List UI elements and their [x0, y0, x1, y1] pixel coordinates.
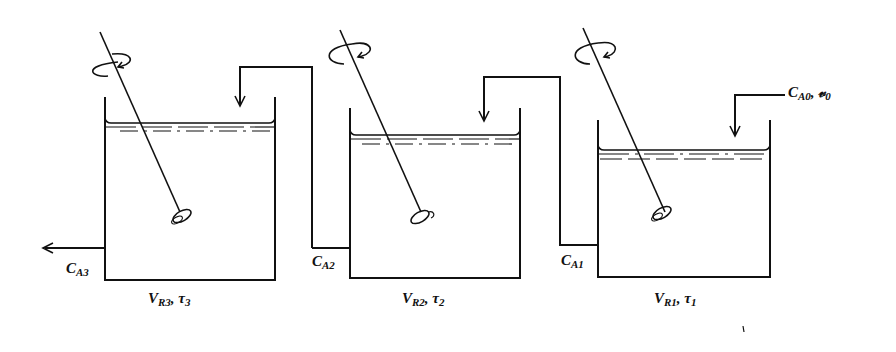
- impeller-icon: [170, 207, 193, 226]
- feed-pipe: [735, 95, 785, 135]
- tank-3-label: VR3, τ3: [148, 290, 191, 308]
- feed-label: CA0, 𝓋0: [788, 84, 831, 102]
- rotation-arrow-icon: [575, 43, 615, 64]
- tank-2: [329, 30, 520, 278]
- tank-3: [93, 32, 275, 280]
- cstr-series-diagram: [0, 0, 896, 352]
- agitator-shaft: [583, 28, 665, 212]
- agitator-shaft: [340, 30, 421, 212]
- outlet-label-2: CA2: [312, 253, 335, 271]
- tank-1: [575, 28, 770, 277]
- outlet-label-3: CA3: [66, 260, 89, 278]
- outlet-label-1: CA1: [561, 252, 584, 270]
- pipe-1-to-2: [484, 77, 598, 245]
- tank-1-label: VR1, τ1: [654, 290, 697, 308]
- agitator-shaft: [100, 32, 180, 212]
- tank-2-label: VR2, τ2: [402, 290, 445, 308]
- impeller-icon: [409, 208, 434, 227]
